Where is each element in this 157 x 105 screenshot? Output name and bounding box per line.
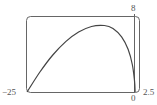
- plot-frame: [27, 17, 140, 93]
- x-max-tick-label: 2.5: [143, 88, 154, 97]
- y-max-tick-label: 8: [131, 4, 136, 13]
- plot-area: [0, 0, 157, 105]
- origin-tick-label: 0: [131, 94, 136, 103]
- x-min-tick-label: −25: [2, 88, 16, 97]
- chart: 8 −25 0 2.5: [0, 0, 157, 105]
- data-curve: [27, 25, 135, 92]
